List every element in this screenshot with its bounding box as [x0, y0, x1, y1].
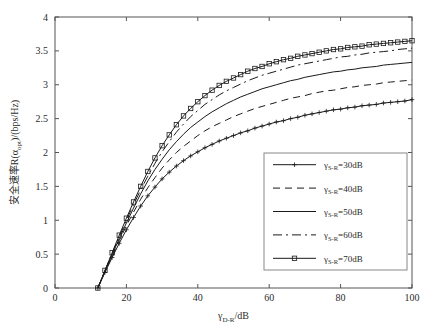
y-tick-label: 0.5: [36, 249, 49, 260]
x-tick-label: 60: [264, 292, 274, 303]
figure-canvas: 02040608010000.511.522.533.54γD-R/dB安全速率…: [0, 0, 427, 335]
y-tick-label: 4: [43, 12, 48, 23]
y-tick-label: 1: [43, 215, 48, 226]
x-tick-label: 80: [336, 292, 346, 303]
x-tick-label: 0: [53, 292, 58, 303]
y-tick-label: 2.5: [36, 113, 49, 124]
chart-legend[interactable]: γS-R=30dBγS-R=40dBγS-R=50dBγS-R=60dBγS-R…: [264, 153, 407, 270]
y-tick-label: 2: [43, 147, 48, 158]
y-tick-label: 1.5: [36, 181, 49, 192]
x-tick-label: 20: [121, 292, 131, 303]
x-tick-label: 40: [193, 292, 203, 303]
x-tick-label: 100: [405, 292, 420, 303]
y-tick-label: 3.5: [36, 45, 49, 56]
chart-svg: 02040608010000.511.522.533.54γD-R/dB安全速率…: [0, 0, 427, 335]
y-tick-label: 0: [43, 283, 48, 294]
y-tick-label: 3: [43, 79, 48, 90]
